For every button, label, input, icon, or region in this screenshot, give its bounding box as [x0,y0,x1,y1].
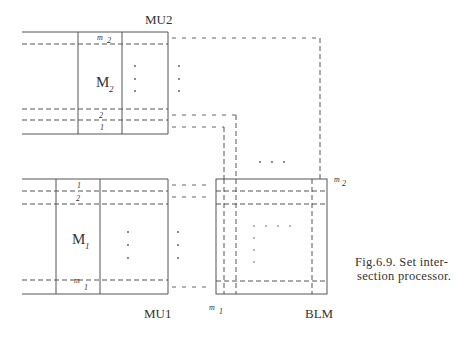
svg-text:1: 1 [77,181,81,190]
svg-text:m: m [97,33,103,42]
svg-text:2: 2 [109,84,114,94]
figure-caption: Fig.6.9. Set inter- section processor. [355,255,451,283]
mu1-label: MU1 [144,306,171,321]
svg-text:1: 1 [84,283,88,292]
svg-text:2: 2 [99,111,103,120]
mu2-label: MU2 [145,12,172,27]
blm-label: BLM [305,306,334,321]
svg-text:m: m [334,175,340,184]
svg-text:2: 2 [107,36,111,45]
m2-memory-label: M [96,74,109,90]
m1-memory-label: M [72,231,85,247]
svg-text:1: 1 [100,123,104,132]
set-intersection-diagram: MU2 M 2 m 2 2 1 M 1 1 2 m 1 MU1 m 1 m 2 … [0,0,474,339]
blm-unit [216,179,327,294]
svg-text:m: m [209,303,215,312]
svg-text:1: 1 [219,307,223,316]
svg-text:1: 1 [85,241,90,251]
svg-text:2: 2 [342,179,346,188]
svg-text:m: m [74,276,80,285]
mu1-unit [22,179,179,294]
svg-text:2: 2 [76,194,80,203]
